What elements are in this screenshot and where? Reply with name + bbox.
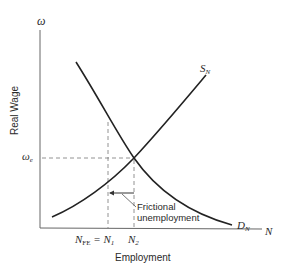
n-fe-label: NFE = N1	[75, 233, 114, 247]
equilibrium-wage-label: ωe	[22, 150, 33, 164]
supply-curve	[52, 75, 206, 217]
demand-curve-label: DN	[237, 219, 250, 233]
arrowhead-icon	[109, 191, 114, 196]
supply-curve-label: SN	[200, 62, 210, 76]
n2-label: N2	[128, 233, 139, 247]
y-axis-symbol: ω	[37, 14, 45, 29]
annotation-line-1: Frictional	[137, 201, 199, 212]
labor-market-diagram: ω Real Wage ωe SN DN N Frictional unempl…	[0, 0, 288, 271]
frictional-unemployment-annotation: Frictional unemployment	[137, 201, 199, 223]
y-axis-label: Real Wage	[9, 86, 20, 135]
x-axis-symbol: N	[265, 225, 272, 237]
x-axis-label: Employment	[115, 252, 171, 263]
x-axis	[40, 228, 262, 229]
annotation-line-2: unemployment	[137, 212, 199, 223]
